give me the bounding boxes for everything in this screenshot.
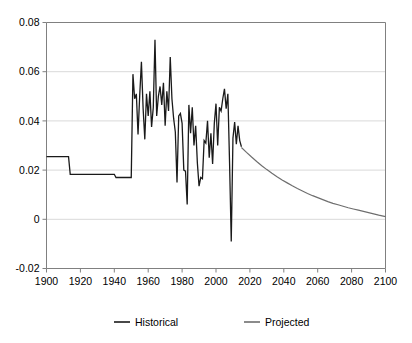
x-tick-label: 2060 — [306, 275, 330, 287]
x-tick-label: 2000 — [204, 275, 228, 287]
y-tick-label: 0.02 — [19, 164, 40, 176]
legend-label-projected[interactable]: Projected — [265, 316, 310, 328]
x-tick-label: 1900 — [35, 275, 59, 287]
x-tick-label: 2100 — [374, 275, 398, 287]
chart-background — [0, 0, 412, 343]
x-tick-label: 2040 — [272, 275, 296, 287]
legend-label-historical[interactable]: Historical — [135, 316, 178, 328]
y-tick-label: 0.06 — [19, 65, 40, 77]
chart-container: 0.080.060.040.020-0.02 19001920194019601… — [0, 0, 412, 343]
x-tick-label: 2020 — [238, 275, 262, 287]
line-chart: 0.080.060.040.020-0.02 19001920194019601… — [0, 0, 412, 343]
x-tick-label: 1960 — [137, 275, 161, 287]
y-tick-label: -0.02 — [16, 262, 40, 274]
y-tick-label: 0.08 — [19, 16, 40, 28]
x-tick-label: 1940 — [103, 275, 127, 287]
x-tick-label: 2080 — [340, 275, 364, 287]
y-tick-label: 0.04 — [19, 115, 40, 127]
x-tick-label: 1980 — [170, 275, 194, 287]
x-tick-label: 1920 — [69, 275, 93, 287]
y-tick-label: 0 — [34, 213, 40, 225]
